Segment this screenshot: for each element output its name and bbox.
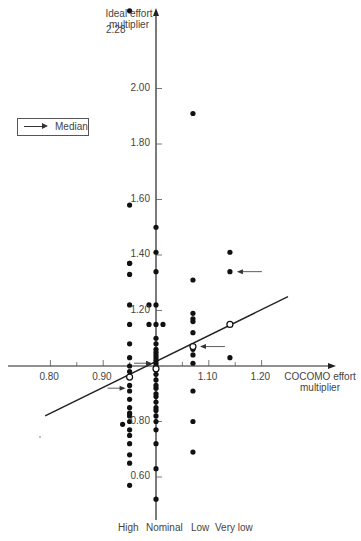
category-label: Nominal: [146, 522, 183, 533]
data-point: [153, 408, 158, 413]
data-point: [190, 449, 195, 454]
category-label: Very low: [215, 522, 253, 533]
data-point: [190, 330, 195, 335]
data-point: [146, 322, 151, 327]
data-point: [153, 269, 158, 274]
y-tick-label: 1.20: [110, 304, 150, 315]
data-point: [127, 383, 132, 388]
y-tick-label: 2.00: [110, 82, 150, 93]
median-marker: [127, 374, 133, 380]
data-point: [127, 388, 132, 393]
data-point: [190, 361, 195, 366]
median-arrow-head-icon: [200, 344, 206, 349]
data-point: [227, 355, 232, 360]
data-point: [153, 419, 158, 424]
data-point: [127, 322, 132, 327]
category-label: High: [118, 522, 139, 533]
data-point: [153, 377, 158, 382]
median-marker: [227, 321, 233, 327]
median-marker: [190, 344, 196, 350]
data-point: [127, 427, 132, 432]
data-point: [153, 336, 158, 341]
data-point: [190, 319, 195, 324]
data-point: [190, 419, 195, 424]
data-point: [127, 261, 132, 266]
data-point: [227, 250, 232, 255]
data-point: [127, 405, 132, 410]
data-point: [190, 111, 195, 116]
data-point: [127, 483, 132, 488]
legend: Median: [17, 118, 89, 136]
data-point: [153, 341, 158, 346]
data-point: [190, 352, 195, 357]
x-tick-label: 0.90: [92, 371, 111, 382]
data-point: [153, 427, 158, 432]
data-point: [127, 341, 132, 346]
y-tick-label: 1.40: [110, 248, 150, 259]
data-point: [127, 433, 132, 438]
median-marker: [153, 366, 159, 372]
data-point: [153, 225, 158, 230]
fit-line: [45, 297, 288, 416]
legend-label: Median: [55, 121, 88, 132]
data-point: [127, 272, 132, 277]
data-point: [127, 441, 132, 446]
data-point: [153, 394, 158, 399]
y-tick-label: 1.60: [110, 193, 150, 204]
x-tick-label: 1.10: [198, 371, 217, 382]
data-point: [153, 413, 158, 418]
data-point: [153, 441, 158, 446]
x-axis-arrow-icon: [328, 363, 336, 369]
median-arrow-head-icon: [120, 386, 126, 391]
data-point: [153, 322, 158, 327]
data-point: [153, 372, 158, 377]
data-point: [153, 399, 158, 404]
data-point: [190, 388, 195, 393]
data-point: [127, 397, 132, 402]
y-tick-label: 0.80: [110, 415, 150, 426]
stray-dot: [39, 436, 41, 438]
data-point: [153, 386, 158, 391]
category-label: Low: [191, 522, 209, 533]
x-tick-label: 1.20: [251, 371, 270, 382]
median-arrow-head-icon: [237, 269, 243, 274]
y-tick-label: 1.80: [110, 137, 150, 148]
y-annotation-label: 2.28: [106, 24, 125, 35]
data-point: [127, 452, 132, 457]
data-point: [227, 269, 232, 274]
data-point: [153, 302, 158, 307]
data-point: [127, 355, 132, 360]
x-tick-label: 0.80: [39, 371, 58, 382]
scatter-plot: [0, 0, 361, 541]
data-point: [153, 497, 158, 502]
data-point: [153, 250, 158, 255]
fit-line: [45, 297, 288, 416]
data-point: [190, 311, 195, 316]
data-point: [127, 369, 132, 374]
data-point: [127, 363, 132, 368]
data-point: [153, 466, 158, 471]
data-point: [160, 322, 165, 327]
x-axis-title: COCOMO effort multiplier: [282, 371, 358, 393]
data-point: [190, 277, 195, 282]
data-point: [127, 461, 132, 466]
axes: [8, 8, 336, 520]
y-tick-label: 0.60: [110, 470, 150, 481]
arrow-icon: [24, 126, 46, 127]
